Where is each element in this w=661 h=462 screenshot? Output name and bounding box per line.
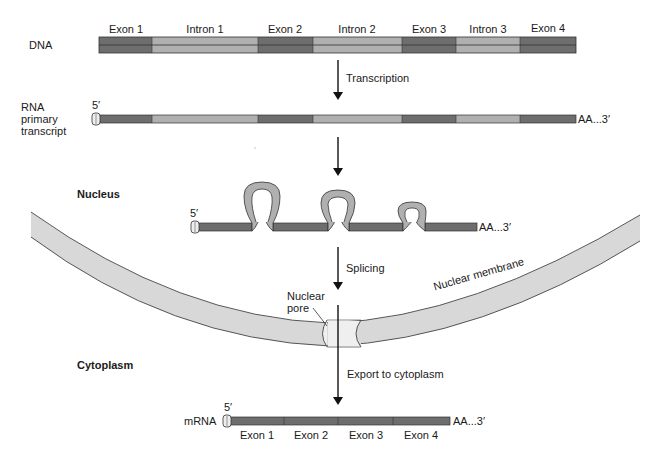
transcription-arrow xyxy=(333,60,343,100)
mrna-exon-label: Exon 3 xyxy=(349,429,383,441)
three-prime-label: AA...3′ xyxy=(479,221,511,233)
mrna-exon-label: Exon 4 xyxy=(404,429,438,441)
primary-transcript-label-line2: primary xyxy=(21,113,58,125)
five-prime-cap-icon xyxy=(92,113,100,125)
three-prime-label: AA...3′ xyxy=(578,113,610,125)
primary-transcript-label-line1: RNA xyxy=(21,101,44,113)
nucleus-label: Nucleus xyxy=(77,188,120,200)
five-prime-cap-icon xyxy=(223,415,231,427)
transcription-label: Transcription xyxy=(346,72,409,84)
dna-segment-label: Exon 4 xyxy=(531,22,565,34)
nuclear-membrane xyxy=(31,212,640,348)
dna-segment-label: Exon 1 xyxy=(109,23,143,35)
export-label: Export to cytoplasm xyxy=(347,368,444,380)
dna-segment-label: Intron 2 xyxy=(338,23,375,35)
mrna-exon-label: Exon 1 xyxy=(240,429,274,441)
dna-label: DNA xyxy=(29,39,52,51)
mrna-label: mRNA xyxy=(184,415,216,427)
three-prime-label: AA...3′ xyxy=(453,415,485,427)
splicing-arrow xyxy=(333,247,343,290)
dna-segment-label: Exon 3 xyxy=(412,23,446,35)
rna-processing-diagram: DNA Exon 1 Intron 1 Exon 2 Intron 2 Exon… xyxy=(0,0,661,462)
splicing-label: Splicing xyxy=(346,262,385,274)
five-prime-label: 5′ xyxy=(92,99,100,111)
nuclear-pore-label-line2: pore xyxy=(287,302,309,314)
dna-segment-label: Intron 3 xyxy=(469,23,506,35)
dna-segment-label: Intron 1 xyxy=(186,23,223,35)
diagram-graphics xyxy=(0,0,661,462)
dna-segment-label: Exon 2 xyxy=(268,23,302,35)
nuclear-pore-label-line1: Nuclear xyxy=(287,290,325,302)
processing-arrow xyxy=(254,137,343,176)
five-prime-cap-icon xyxy=(191,221,199,233)
looped-transcript xyxy=(191,182,477,233)
five-prime-label: 5′ xyxy=(190,207,198,219)
mrna-bar xyxy=(223,415,450,427)
primary-transcript-label-line3: transcript xyxy=(21,125,66,137)
primary-transcript-bar xyxy=(92,113,576,125)
nuclear-pore xyxy=(323,320,362,348)
cytoplasm-label: Cytoplasm xyxy=(77,359,133,371)
five-prime-label: 5′ xyxy=(224,401,232,413)
dna-bar xyxy=(99,37,576,53)
mrna-exon-label: Exon 2 xyxy=(294,429,328,441)
